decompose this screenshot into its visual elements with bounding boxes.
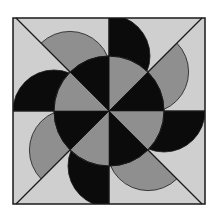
pinwheel-figure: Pinwheel quilt block <box>0 0 217 216</box>
pinwheel-svg: Pinwheel quilt block <box>0 0 217 216</box>
center-disc <box>54 56 164 166</box>
